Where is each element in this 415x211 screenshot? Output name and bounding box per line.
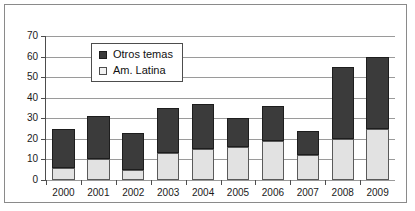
- x-axis-label-2009: 2009: [360, 188, 395, 198]
- x-tick-2000: [46, 180, 47, 185]
- y-axis-label-70: 70: [27, 31, 38, 41]
- bar-segment-am-latina-2000[interactable]: [52, 168, 74, 180]
- x-axis-label-2000: 2000: [46, 188, 81, 198]
- bar-segment-am-latina-2006[interactable]: [262, 141, 284, 180]
- bar-segment-am-latina-2002[interactable]: [122, 170, 144, 180]
- stacked-bar-2003[interactable]: [157, 108, 179, 180]
- y-axis-label-10: 10: [27, 154, 38, 164]
- legend-item-otros-temas: Otros temas: [99, 49, 173, 60]
- x-tick-2007: [290, 180, 291, 185]
- bar-slot-2008: 2008: [325, 36, 360, 180]
- bar-segment-otros-temas-2003[interactable]: [157, 108, 179, 153]
- x-tick-2004: [186, 180, 187, 185]
- x-tick-2009: [360, 180, 361, 185]
- y-axis-label-60: 60: [27, 52, 38, 62]
- x-axis-label-2008: 2008: [325, 188, 360, 198]
- bar-segment-am-latina-2004[interactable]: [192, 149, 214, 180]
- bar-segment-otros-temas-2004[interactable]: [192, 104, 214, 149]
- chart-frame: 010203040506070 200020012002200320042005…: [4, 4, 407, 203]
- bar-segment-am-latina-2003[interactable]: [157, 153, 179, 180]
- bar-slot-2007: 2007: [290, 36, 325, 180]
- stacked-bar-2008[interactable]: [332, 67, 354, 180]
- bar-segment-otros-temas-2002[interactable]: [122, 133, 144, 170]
- bar-segment-otros-temas-2001[interactable]: [87, 116, 109, 159]
- x-axis-label-2001: 2001: [81, 188, 116, 198]
- legend-label-otros-temas: Otros temas: [113, 49, 173, 60]
- bar-segment-am-latina-2001[interactable]: [87, 159, 109, 180]
- chart-legend: Otros temas Am. Latina: [91, 43, 183, 82]
- stacked-bar-2005[interactable]: [227, 118, 249, 180]
- y-axis-label-20: 20: [27, 134, 38, 144]
- x-axis-label-2004: 2004: [186, 188, 221, 198]
- x-tick-2006: [255, 180, 256, 185]
- x-tick-2002: [116, 180, 117, 185]
- legend-swatch-light-icon: [99, 67, 107, 75]
- stacked-bar-2000[interactable]: [52, 129, 74, 180]
- stacked-bar-2009[interactable]: [366, 57, 388, 180]
- bar-segment-am-latina-2007[interactable]: [297, 155, 319, 180]
- y-axis-label-0: 0: [32, 175, 38, 185]
- bar-segment-otros-temas-2000[interactable]: [52, 129, 74, 168]
- stacked-bar-2006[interactable]: [262, 106, 284, 180]
- legend-item-am-latina: Am. Latina: [99, 65, 173, 76]
- bar-slot-2006: 2006: [255, 36, 290, 180]
- bar-segment-am-latina-2008[interactable]: [332, 139, 354, 180]
- x-tick-2001: [81, 180, 82, 185]
- x-axis-label-2003: 2003: [151, 188, 186, 198]
- legend-swatch-dark-icon: [99, 51, 107, 59]
- bar-slot-2005: 2005: [221, 36, 256, 180]
- stacked-bar-2001[interactable]: [87, 116, 109, 180]
- y-axis-label-30: 30: [27, 113, 38, 123]
- stacked-bar-2007[interactable]: [297, 131, 319, 180]
- legend-label-am-latina: Am. Latina: [113, 65, 166, 76]
- bar-segment-otros-temas-2007[interactable]: [297, 131, 319, 156]
- x-axis-label-2002: 2002: [116, 188, 151, 198]
- x-axis-label-2005: 2005: [221, 188, 256, 198]
- y-axis-label-50: 50: [27, 72, 38, 82]
- bar-slot-2004: 2004: [186, 36, 221, 180]
- bar-segment-otros-temas-2005[interactable]: [227, 118, 249, 147]
- y-axis-label-40: 40: [27, 93, 38, 103]
- x-axis-label-2007: 2007: [290, 188, 325, 198]
- bar-slot-2000: 2000: [46, 36, 81, 180]
- bar-slot-2009: 2009: [360, 36, 395, 180]
- bar-segment-am-latina-2005[interactable]: [227, 147, 249, 180]
- x-tick-2008: [325, 180, 326, 185]
- bar-segment-otros-temas-2008[interactable]: [332, 67, 354, 139]
- bar-segment-am-latina-2009[interactable]: [366, 129, 388, 180]
- stacked-bar-2004[interactable]: [192, 104, 214, 180]
- x-tick-2003: [151, 180, 152, 185]
- x-tick-2005: [221, 180, 222, 185]
- x-axis-label-2006: 2006: [255, 188, 290, 198]
- bar-segment-otros-temas-2006[interactable]: [262, 106, 284, 141]
- stacked-bar-2002[interactable]: [122, 133, 144, 180]
- bar-segment-otros-temas-2009[interactable]: [366, 57, 388, 129]
